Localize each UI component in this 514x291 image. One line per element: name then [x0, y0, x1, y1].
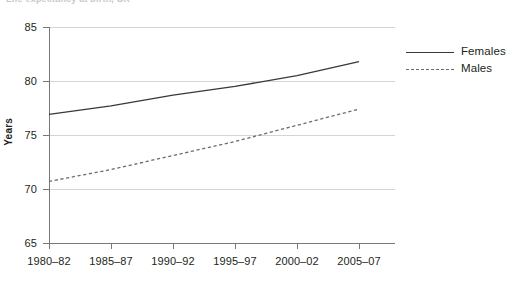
x-tick-label-1995-97: 1995–97	[200, 256, 270, 267]
x-tick-label-1985-87: 1985–87	[76, 256, 146, 267]
legend-label-males: Males	[461, 62, 492, 75]
y-tick-label-80: 80	[13, 76, 37, 87]
series-line-females	[49, 62, 359, 115]
gridlines	[49, 27, 395, 189]
x-tick-label-1990-92: 1990–92	[138, 256, 208, 267]
chart-legend: Females Males	[406, 44, 512, 78]
legend-item-males[interactable]: Males	[406, 61, 512, 78]
x-axis-ticks	[49, 243, 359, 249]
line-chart: Years 85 80 75 70 65 1980–82 1985–87 199…	[0, 0, 514, 291]
y-tick-label-75: 75	[13, 130, 37, 141]
y-tick-label-70: 70	[13, 184, 37, 195]
x-tick-label-1980-82: 1980–82	[14, 256, 84, 267]
y-axis-ticks	[43, 27, 49, 243]
x-tick-label-2000-02: 2000–02	[262, 256, 332, 267]
y-tick-label-85: 85	[13, 22, 37, 33]
x-tick-label-2005-07: 2005–07	[324, 256, 394, 267]
legend-item-females[interactable]: Females	[406, 44, 512, 61]
legend-swatch-dashed-icon	[406, 69, 454, 70]
legend-swatch-solid-icon	[406, 52, 454, 53]
y-tick-label-65: 65	[13, 238, 37, 249]
legend-label-females: Females	[461, 45, 506, 58]
series-line-males	[49, 109, 359, 181]
